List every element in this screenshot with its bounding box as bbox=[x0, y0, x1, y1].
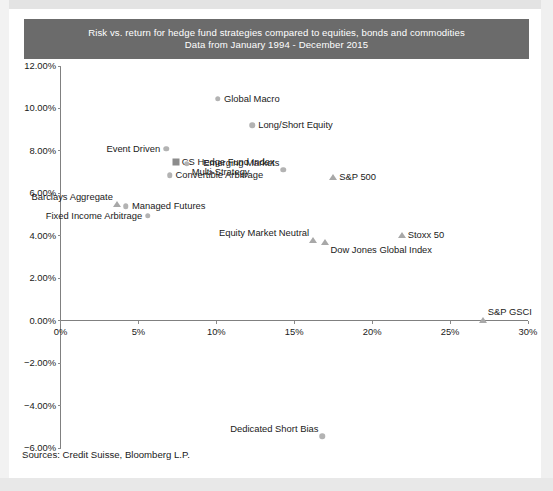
chart-title-banner: Risk vs. return for hedge fund strategie… bbox=[24, 19, 529, 59]
circle-marker[interactable] bbox=[281, 167, 287, 173]
y-axis-tick-label: 0.00% bbox=[4, 315, 56, 326]
x-axis-tick-mark bbox=[528, 321, 529, 324]
circle-marker[interactable] bbox=[320, 434, 326, 440]
x-axis-tick-label: 20% bbox=[348, 326, 396, 337]
y-axis-tick-label: 2.00% bbox=[4, 272, 56, 283]
triangle-marker[interactable] bbox=[479, 317, 487, 323]
y-axis-tick-mark bbox=[58, 235, 61, 236]
point-label: Multi-Strategy bbox=[192, 166, 250, 177]
triangle-marker[interactable] bbox=[113, 201, 121, 207]
y-axis-tick-mark bbox=[58, 193, 61, 194]
circle-marker[interactable] bbox=[123, 203, 129, 209]
y-axis-tick-mark bbox=[58, 66, 61, 67]
source-note: Sources: Credit Suisse, Bloomberg L.P. bbox=[22, 449, 190, 460]
point-label: Emerging Markets bbox=[203, 157, 279, 168]
point-label: Fixed Income Arbitrage bbox=[46, 210, 142, 221]
triangle-marker[interactable] bbox=[329, 174, 337, 180]
point-label: Dedicated Short Bias bbox=[230, 423, 318, 434]
y-axis-tick-mark bbox=[58, 405, 61, 406]
y-axis-tick-label: 8.00% bbox=[4, 145, 56, 156]
y-axis-tick-label: 10.00% bbox=[4, 102, 56, 113]
page-bottom-band bbox=[0, 478, 553, 491]
x-axis-tick-mark bbox=[372, 321, 373, 324]
x-axis-tick-mark bbox=[60, 321, 61, 324]
x-axis-tick-mark bbox=[216, 321, 217, 324]
circle-marker[interactable] bbox=[164, 146, 170, 152]
y-axis-tick-mark bbox=[58, 108, 61, 109]
square-marker[interactable] bbox=[172, 158, 179, 165]
point-label: Stoxx 50 bbox=[408, 229, 444, 240]
circle-marker[interactable] bbox=[215, 96, 221, 102]
chart-title: Risk vs. return for hedge fund strategie… bbox=[88, 27, 465, 39]
y-axis-tick-label: −2.00% bbox=[4, 357, 56, 368]
y-axis-tick-label: 6.00% bbox=[4, 187, 56, 198]
point-label: Convertible Arbitrage bbox=[176, 169, 264, 180]
x-axis-tick-label: 0% bbox=[37, 326, 85, 337]
y-axis-tick-mark bbox=[58, 150, 61, 151]
point-label: Long/Short Equity bbox=[258, 119, 333, 130]
x-axis-tick-mark bbox=[294, 321, 295, 324]
triangle-marker[interactable] bbox=[321, 239, 329, 245]
circle-marker[interactable] bbox=[145, 213, 151, 219]
point-label: Event Driven bbox=[106, 143, 160, 154]
point-label: Dow Jones Global Index bbox=[330, 244, 432, 255]
x-axis-tick-label: 15% bbox=[270, 326, 318, 337]
circle-marker[interactable] bbox=[167, 173, 173, 179]
chart-subtitle: Data from January 1994 - December 2015 bbox=[185, 39, 368, 51]
point-label: Managed Futures bbox=[132, 200, 205, 211]
x-axis-tick-mark bbox=[138, 321, 139, 324]
triangle-marker[interactable] bbox=[309, 237, 317, 243]
x-axis bbox=[61, 320, 529, 321]
page-right-band bbox=[541, 0, 553, 491]
x-axis-tick-label: 10% bbox=[192, 326, 240, 337]
y-axis-tick-mark bbox=[58, 363, 61, 364]
x-axis-tick-label: 5% bbox=[114, 326, 162, 337]
point-label: Barclays Aggregate bbox=[32, 191, 113, 202]
y-axis-tick-label: 4.00% bbox=[4, 230, 56, 241]
y-axis-tick-label: −4.00% bbox=[4, 400, 56, 411]
x-axis-tick-mark bbox=[450, 321, 451, 324]
y-axis-tick-label: 12.00% bbox=[4, 60, 56, 71]
y-axis-tick-mark bbox=[58, 278, 61, 279]
circle-marker[interactable] bbox=[249, 123, 255, 129]
point-label: CS Hedge Fund Index bbox=[182, 156, 275, 167]
page-left-band bbox=[0, 0, 9, 491]
y-axis-tick-mark bbox=[58, 320, 61, 321]
scatter-plot: 12.00%10.00%8.00%6.00%4.00%2.00%0.00%−2.… bbox=[0, 0, 553, 491]
point-label: Global Macro bbox=[224, 93, 280, 104]
point-label: S&P GSCI bbox=[488, 306, 532, 317]
point-label: Equity Market Neutral bbox=[219, 227, 309, 238]
triangle-marker[interactable] bbox=[398, 232, 406, 238]
chart-page: Risk vs. return for hedge fund strategie… bbox=[0, 0, 553, 491]
y-axis bbox=[60, 66, 61, 448]
x-axis-tick-label: 25% bbox=[426, 326, 474, 337]
circle-marker[interactable] bbox=[184, 161, 190, 167]
point-label: S&P 500 bbox=[339, 171, 376, 182]
page-top-band bbox=[0, 0, 553, 9]
